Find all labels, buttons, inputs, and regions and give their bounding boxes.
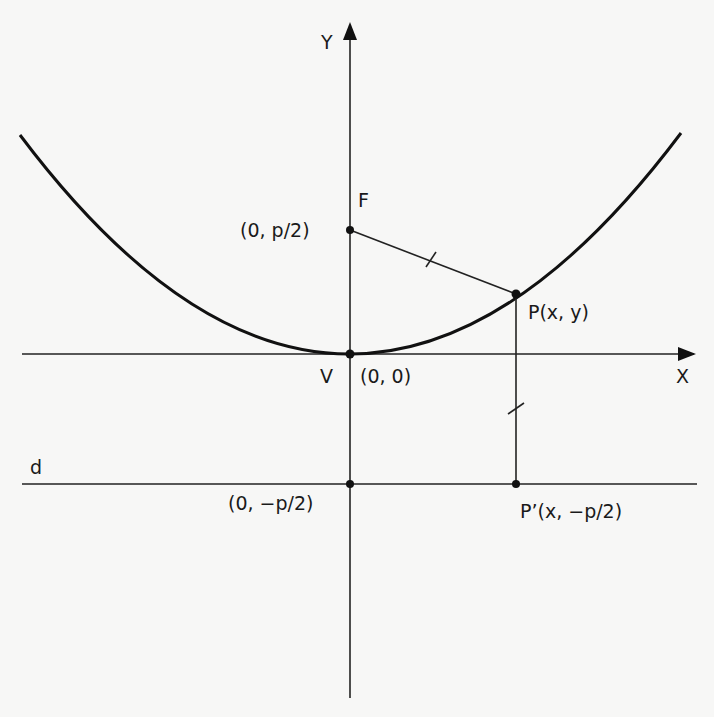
- y-axis-label: Y: [321, 33, 333, 52]
- diagram-graphics: [0, 0, 714, 717]
- parabola-point: [512, 290, 521, 299]
- x-axis-arrow-icon: [678, 347, 696, 361]
- vertex-point: [346, 350, 355, 359]
- projection-point: [512, 480, 520, 488]
- segment-focus-to-point: [350, 230, 516, 294]
- focus-label: F: [358, 191, 369, 210]
- y-axis-arrow-icon: [343, 22, 357, 40]
- parabola-diagram: Y X F (0, p/2) V (0, 0) P(x, y) d (0, −p…: [0, 0, 714, 717]
- directrix-point-coords-label: (0, −p/2): [228, 494, 313, 513]
- focus-point: [346, 226, 354, 234]
- x-axis-label: X: [676, 367, 689, 386]
- directrix-axis-point: [346, 480, 354, 488]
- projection-label: P’(x, −p/2): [520, 502, 622, 521]
- focus-coords-label: (0, p/2): [240, 221, 310, 240]
- directrix-label: d: [30, 458, 42, 477]
- vertex-label: V: [320, 367, 333, 386]
- vertex-coords-label: (0, 0): [360, 367, 411, 386]
- point-label: P(x, y): [528, 303, 589, 322]
